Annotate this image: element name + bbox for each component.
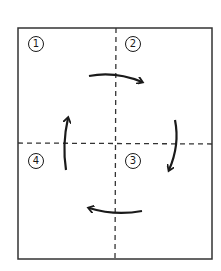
arrow-4-to-1-icon [64, 118, 68, 170]
vertical-dashed-divider [115, 28, 116, 259]
quadrant-label-2: 2 [125, 36, 141, 52]
horizontal-dashed-divider [18, 143, 212, 144]
quadrant-label-1: 1 [28, 36, 44, 52]
quadrant-label-3: 3 [125, 153, 141, 169]
quadrant-label-4: 4 [28, 153, 44, 169]
arrow-2-to-3-icon [169, 120, 177, 170]
arrow-1-to-2-icon [89, 74, 142, 82]
